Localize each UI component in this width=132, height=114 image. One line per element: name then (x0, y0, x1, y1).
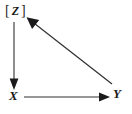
arrowhead-upleft-at-z (27, 17, 40, 29)
node-label-y: Y (113, 87, 121, 100)
edge-y-to-z (27, 17, 113, 84)
edge-y-to-z-line (35, 24, 113, 85)
edge-z-to-x (10, 22, 19, 90)
causal-diagram-figure: [Z] X Y (0, 0, 132, 114)
node-variable-z: Z (10, 4, 21, 18)
node-label-x: X (9, 89, 18, 102)
arrowhead-right-at-y (99, 92, 110, 101)
node-label-z: [Z] (5, 4, 26, 18)
edge-x-to-y (24, 92, 110, 101)
bracket-close: ] (21, 3, 26, 18)
